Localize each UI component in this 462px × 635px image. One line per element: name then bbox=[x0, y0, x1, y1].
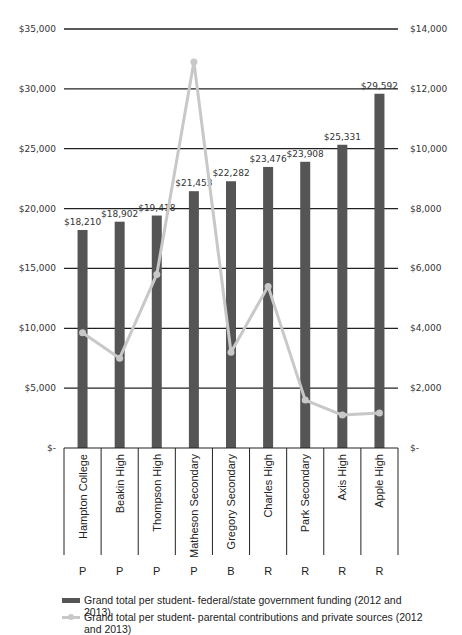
bar-series bbox=[78, 94, 385, 448]
right-tick-label: $- bbox=[410, 443, 419, 453]
bar bbox=[374, 94, 384, 448]
line-point bbox=[376, 409, 383, 416]
right-tick-label: $8,000 bbox=[410, 204, 442, 214]
category-label: Park Secondary bbox=[299, 454, 311, 533]
bar bbox=[78, 230, 88, 448]
category-labels: Hampton CollegeBeakin HighThompson HighM… bbox=[77, 454, 386, 558]
bar-value-label: $23,908 bbox=[287, 149, 324, 159]
category-label: Apple High bbox=[373, 454, 385, 508]
bar bbox=[189, 191, 199, 448]
line-point bbox=[190, 58, 197, 65]
bar bbox=[263, 167, 273, 448]
bar-value-label: $18,902 bbox=[101, 209, 138, 219]
category-label: Thompson High bbox=[151, 454, 163, 532]
group-label: P bbox=[190, 565, 197, 577]
group-label: R bbox=[338, 565, 346, 577]
group-label: R bbox=[375, 565, 383, 577]
bar-value-label: $22,282 bbox=[212, 168, 249, 178]
bar bbox=[300, 162, 310, 448]
right-tick-label: $6,000 bbox=[410, 263, 442, 273]
bar-value-label: $18,210 bbox=[64, 217, 101, 227]
group-labels: PPPPBRRRR bbox=[79, 565, 384, 577]
group-label: P bbox=[79, 565, 86, 577]
left-tick-label: $35,000 bbox=[19, 24, 56, 34]
right-tick-label: $4,000 bbox=[410, 323, 442, 333]
category-label: Matheson Secondary bbox=[188, 454, 200, 558]
group-label: P bbox=[116, 565, 123, 577]
category-label: Hampton College bbox=[77, 454, 89, 539]
left-tick-label: $30,000 bbox=[19, 84, 56, 94]
right-tick-label: $14,000 bbox=[410, 24, 447, 34]
line-point bbox=[79, 329, 86, 336]
group-label: R bbox=[264, 565, 272, 577]
right-tick-label: $10,000 bbox=[410, 144, 447, 154]
bar-value-label: $23,476 bbox=[250, 154, 287, 164]
left-tick-label: $25,000 bbox=[19, 144, 56, 154]
group-label: P bbox=[153, 565, 160, 577]
left-axis-ticks: $-$5,000$10,000$15,000$20,000$25,000$30,… bbox=[19, 24, 56, 453]
category-label: Charles High bbox=[262, 454, 274, 518]
right-tick-label: $12,000 bbox=[410, 84, 447, 94]
line-point bbox=[265, 283, 272, 290]
left-tick-label: $5,000 bbox=[25, 383, 57, 393]
category-label: Axis High bbox=[336, 454, 348, 500]
left-tick-label: $10,000 bbox=[19, 323, 56, 333]
left-tick-label: $- bbox=[47, 443, 56, 453]
group-label: R bbox=[301, 565, 309, 577]
group-label: B bbox=[227, 565, 234, 577]
line-point bbox=[302, 397, 309, 404]
line-point bbox=[153, 271, 160, 278]
legend-line-label: Grand total per student- parental contri… bbox=[84, 611, 424, 635]
line-point bbox=[228, 349, 235, 356]
legend-line-marker bbox=[68, 614, 74, 620]
left-tick-label: $15,000 bbox=[19, 263, 56, 273]
bar-value-label: $25,331 bbox=[324, 132, 361, 142]
category-label: Beakin High bbox=[114, 454, 126, 513]
right-tick-label: $2,000 bbox=[410, 383, 442, 393]
legend-bar-swatch bbox=[62, 598, 80, 603]
category-label: Gregory Secondary bbox=[225, 454, 237, 550]
left-tick-label: $20,000 bbox=[19, 204, 56, 214]
bar bbox=[337, 145, 347, 448]
bar bbox=[115, 222, 125, 448]
line-point bbox=[116, 355, 123, 362]
bar-value-label: $21,453 bbox=[175, 178, 212, 188]
right-axis-ticks: $-$2,000$4,000$6,000$8,000$10,000$12,000… bbox=[410, 24, 447, 453]
line-point bbox=[339, 412, 346, 419]
bar-value-label: $29,592 bbox=[361, 81, 398, 91]
